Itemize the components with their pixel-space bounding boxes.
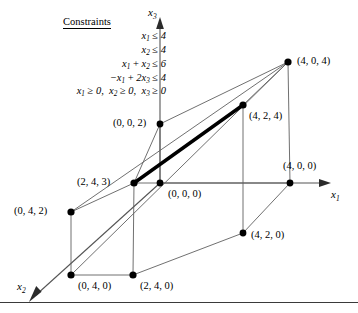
edge-v243-v240 [133,183,134,275]
vertex-dot-v002 [157,121,164,128]
vertex-label-v240: (2, 4, 0) [140,281,173,292]
constraints-block: Constraints x1 ≤ 4 x2 ≤ 4 x1 + x2 ≤ 6 −x… [8,16,188,98]
vertex-label-v424: (4, 2, 4) [249,111,282,122]
constraint-line-2: x2 ≤ 4 [8,44,188,56]
vertex-dot-v424 [239,101,246,108]
constraint-line-3: x1 + x2 ≤ 6 [8,58,188,70]
vertex-label-v420: (4, 2, 0) [251,230,284,241]
vertex-label-v404: (4, 0, 4) [297,56,330,67]
vertex-label-v042: (0, 4, 2) [14,206,47,217]
vertex-label-v400: (4, 0, 0) [283,161,316,172]
edge-v240-v420 [133,233,243,275]
axis-label-x1: x1 [331,189,340,200]
constraint-line-5: x1 ≥ 0, x2 ≥ 0, x3 ≥ 0 [8,85,188,97]
arrowhead-x2-icon [29,286,42,302]
vertex-dot-v040 [67,271,74,278]
vertex-label-v002: (0, 0, 2) [113,118,146,129]
vertex-dot-v243 [130,179,137,186]
lp-feasible-region-figure: Constraints x1 ≤ 4 x2 ≤ 4 x1 + x2 ≤ 6 −x… [0,0,358,313]
vertex-dot-v400 [287,180,294,187]
vertex-label-v040: (0, 4, 0) [78,281,111,292]
vertex-dot-v404 [284,58,291,65]
highlight-edge-v243-v424 [134,105,243,183]
edge-v400-v420 [243,183,290,233]
axis-label-x3: x3 [148,7,157,18]
bottom-divider [0,302,358,303]
vertex-dot-v000 [157,180,164,187]
constraint-line-4: −x1 + 2x3 ≤ 4 [8,72,188,84]
vertex-dot-v042 [67,208,74,215]
arrowhead-x1-icon [319,179,331,187]
constraint-line-1: x1 ≤ 4 [8,30,188,42]
vertex-label-v243: (2, 4, 3) [77,177,110,188]
constraints-title: Constraints [8,16,188,28]
vertex-label-v000: (0, 0, 0) [168,189,201,200]
axis-label-x2: x2 [17,281,26,292]
vertex-dot-v240 [129,271,136,278]
vertex-dot-v420 [240,230,247,237]
